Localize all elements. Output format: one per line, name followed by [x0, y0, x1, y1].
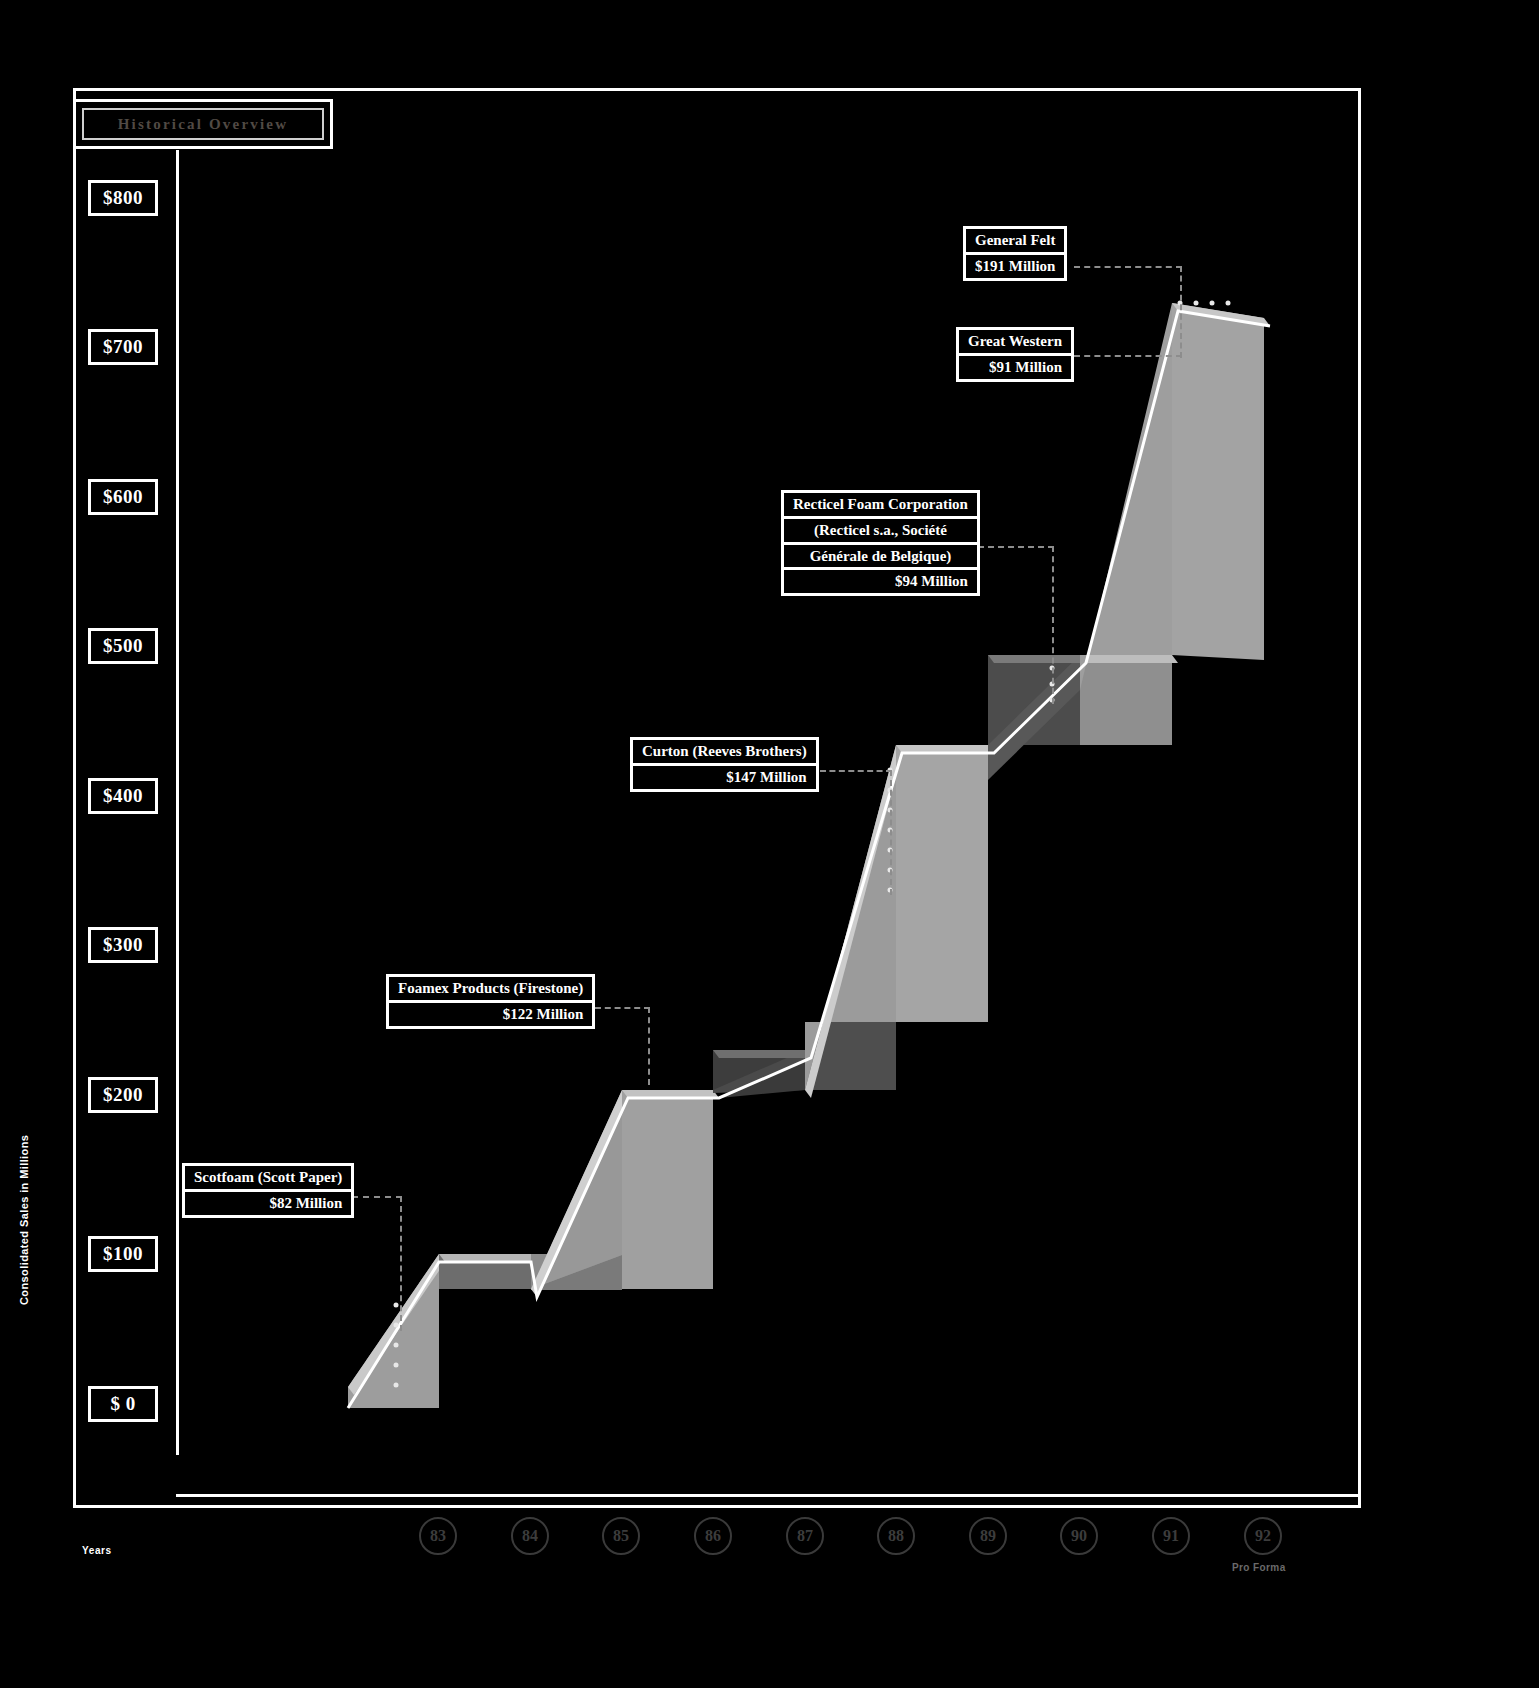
leader-recticel-h	[978, 546, 1054, 548]
y-tick-300: $300	[88, 927, 158, 963]
y-tick-700: $700	[88, 329, 158, 365]
callout-recticel-amount: $94 Million	[781, 567, 980, 596]
x-tick-92: 92	[1244, 1517, 1282, 1555]
x-tick-85: 85	[602, 1517, 640, 1555]
callout-general-felt-company: General Felt	[963, 226, 1067, 255]
x-tick-88: 88	[877, 1517, 915, 1555]
x-tick-90: 90	[1060, 1517, 1098, 1555]
y-tick-600: $600	[88, 479, 158, 515]
callout-foamex-company: Foamex Products (Firestone)	[386, 974, 595, 1003]
x-tick-86: 86	[694, 1517, 732, 1555]
callout-recticel: Recticel Foam Corporation (Recticel s.a.…	[781, 493, 980, 596]
y-tick-200: $200	[88, 1077, 158, 1113]
title-plate: Historical Overview	[73, 99, 333, 149]
leader-curton-h	[820, 770, 892, 772]
callout-foamex-amount: $122 Million	[386, 1000, 595, 1029]
callout-recticel-parent2: Générale de Belgique)	[781, 542, 980, 571]
callout-great-western-company: Great Western	[956, 327, 1074, 356]
callout-foamex: Foamex Products (Firestone) $122 Million	[386, 977, 595, 1029]
callout-scotfoam: Scotfoam (Scott Paper) $82 Million	[182, 1166, 354, 1218]
callout-scotfoam-amount: $82 Million	[182, 1189, 354, 1218]
callout-great-western: Great Western $91 Million	[956, 330, 1074, 382]
x-tick-87: 87	[786, 1517, 824, 1555]
callout-curton-company: Curton (Reeves Brothers)	[630, 737, 819, 766]
leader-scotfoam-v	[400, 1196, 402, 1331]
callout-scotfoam-company: Scotfoam (Scott Paper)	[182, 1163, 354, 1192]
callout-recticel-company: Recticel Foam Corporation	[781, 490, 980, 519]
leader-foamex-v	[648, 1007, 650, 1085]
leader-recticel-v	[1052, 546, 1054, 704]
leader-foamex-h	[595, 1007, 650, 1009]
page-title: Historical Overview	[118, 116, 289, 133]
x-tick-91: 91	[1152, 1517, 1190, 1555]
leader-generalfelt-v	[1180, 266, 1182, 358]
callout-recticel-parent1: (Recticel s.a., Société	[781, 516, 980, 545]
y-tick-400: $400	[88, 778, 158, 814]
y-tick-100: $100	[88, 1236, 158, 1272]
x-tick-89: 89	[969, 1517, 1007, 1555]
leader-generalfelt-h	[1074, 266, 1182, 268]
callout-curton-amount: $147 Million	[630, 763, 819, 792]
y-tick-0: $ 0	[88, 1386, 158, 1422]
leader-greatwestern-h	[1074, 355, 1182, 357]
callout-general-felt-amount: $191 Million	[963, 252, 1067, 281]
title-inner-border: Historical Overview	[82, 108, 324, 140]
y-tick-800: $800	[88, 180, 158, 216]
leader-scotfoam-h	[352, 1196, 402, 1198]
callout-general-felt: General Felt $191 Million	[963, 229, 1067, 281]
callout-curton: Curton (Reeves Brothers) $147 Million	[630, 740, 819, 792]
y-tick-500: $500	[88, 628, 158, 664]
x-tick-83: 83	[419, 1517, 457, 1555]
callout-great-western-amount: $91 Million	[956, 353, 1074, 382]
sales-ribbon	[0, 0, 1539, 1688]
x-tick-84: 84	[511, 1517, 549, 1555]
leader-curton-v	[890, 770, 892, 895]
chart-canvas: Historical Overview	[0, 0, 1539, 1688]
